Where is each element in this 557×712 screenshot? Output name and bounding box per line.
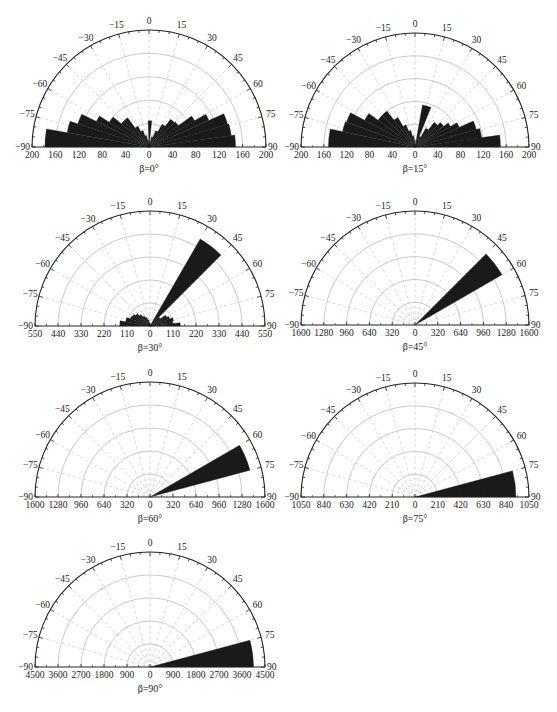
angular-tick [198, 222, 199, 224]
angular-tick [109, 37, 110, 39]
angular-tick [242, 601, 244, 602]
angular-tick-label: 30 [207, 33, 217, 43]
angular-tick [376, 218, 377, 220]
angular-tick-label: −45 [321, 405, 336, 415]
angular-tick [179, 215, 180, 219]
angular-tick [252, 618, 254, 619]
angular-tick [91, 46, 93, 49]
sector-bar [150, 239, 221, 326]
angular-tick-label: 60 [253, 600, 263, 610]
grid-spoke [415, 398, 472, 497]
angular-tick-label: 60 [517, 81, 527, 91]
radial-tick-label: 0 [413, 328, 418, 338]
grid-spoke [334, 416, 415, 497]
radial-tick-label: 840 [499, 500, 514, 510]
angular-tick [256, 287, 258, 288]
grid-spoke [385, 387, 415, 497]
angular-tick [443, 37, 444, 41]
angular-tick-label: −30 [81, 385, 96, 395]
angular-tick [305, 295, 309, 296]
radial-tick-label: 320 [166, 500, 181, 510]
grid-spoke [150, 567, 208, 667]
radial-tick-label: 960 [74, 500, 89, 510]
grid-spoke [69, 586, 150, 667]
angular-tick-label: 15 [177, 372, 187, 382]
angular-tick-label: 45 [497, 55, 507, 65]
angular-tick [188, 389, 189, 391]
angular-tick-label: −45 [55, 574, 70, 584]
angular-tick-label: −45 [55, 233, 70, 243]
radial-tick-label: 160 [235, 150, 250, 160]
radial-tick-label: 4500 [26, 670, 45, 680]
angular-tick [247, 89, 250, 91]
angular-tick [520, 108, 522, 109]
angular-tick [520, 286, 522, 287]
radial-tick-label: 1050 [292, 500, 311, 510]
angular-tick [385, 215, 386, 219]
angular-tick [312, 277, 314, 278]
angular-tick [506, 260, 508, 261]
angular-tick [358, 226, 360, 229]
radial-tick-label: 630 [339, 500, 354, 510]
angular-tick [358, 48, 360, 51]
radial-tick-label: 640 [362, 328, 377, 338]
grid-spoke [305, 295, 415, 325]
radial-tick-label: 640 [189, 500, 204, 510]
radial-tick-label: 2700 [210, 670, 229, 680]
angular-tick [367, 44, 368, 46]
angular-tick [46, 618, 48, 619]
angular-tick [510, 90, 513, 92]
angular-tick [101, 393, 102, 395]
angular-tick [228, 416, 231, 419]
angular-tick [350, 232, 351, 234]
angular-tick-label: 30 [472, 385, 482, 395]
angular-tick [198, 563, 199, 565]
grid-spoke [69, 245, 150, 326]
grid-spoke [415, 226, 472, 325]
radial-tick-label: 200 [294, 150, 309, 160]
radial-tick-label: 220 [97, 329, 112, 339]
radial-tick-label: 110 [166, 329, 180, 339]
angular-tick-label: 30 [472, 35, 482, 45]
sector-bar [150, 640, 254, 667]
angular-tick-label: 0 [413, 197, 418, 207]
angular-tick-label: −60 [301, 81, 316, 91]
angular-tick-label: −75 [23, 630, 38, 640]
radial-tick-label: 3600 [49, 670, 68, 680]
angular-tick-label: 45 [497, 405, 507, 415]
angular-tick [305, 467, 309, 468]
radial-tick-label: 110 [120, 329, 134, 339]
radial-tick-label: 1600 [292, 328, 311, 338]
angular-tick [246, 610, 249, 612]
angular-tick [500, 74, 502, 76]
angular-tick [257, 296, 261, 297]
angular-tick [385, 387, 386, 391]
radial-tick-label: 160 [48, 150, 63, 160]
angular-tick [198, 393, 199, 395]
angular-tick [308, 108, 310, 109]
angular-tick-label: −45 [52, 53, 67, 63]
angular-tick [39, 107, 41, 108]
angular-tick [62, 593, 64, 595]
grid-spoke [334, 244, 415, 325]
angular-tick [178, 34, 179, 38]
radial-tick-label: 40 [387, 150, 397, 160]
angular-tick [223, 57, 225, 59]
grid-spoke [120, 215, 150, 326]
sector-bar [415, 254, 502, 325]
grid-spoke [50, 610, 150, 668]
angular-tick-label: 75 [529, 288, 539, 298]
angular-tick [56, 260, 58, 261]
angular-tick [506, 82, 508, 83]
angular-tick [328, 424, 330, 426]
angular-tick-label: 60 [517, 431, 527, 441]
grid-spoke [305, 467, 415, 497]
grid-spoke [120, 386, 150, 497]
angular-tick-label: 15 [442, 201, 452, 211]
angular-tick-label: −60 [35, 259, 50, 269]
angular-tick [62, 252, 64, 254]
angular-tick [521, 117, 525, 118]
angular-tick [228, 586, 231, 589]
angular-tick [493, 244, 496, 247]
radial-tick-label: 0 [147, 150, 152, 160]
